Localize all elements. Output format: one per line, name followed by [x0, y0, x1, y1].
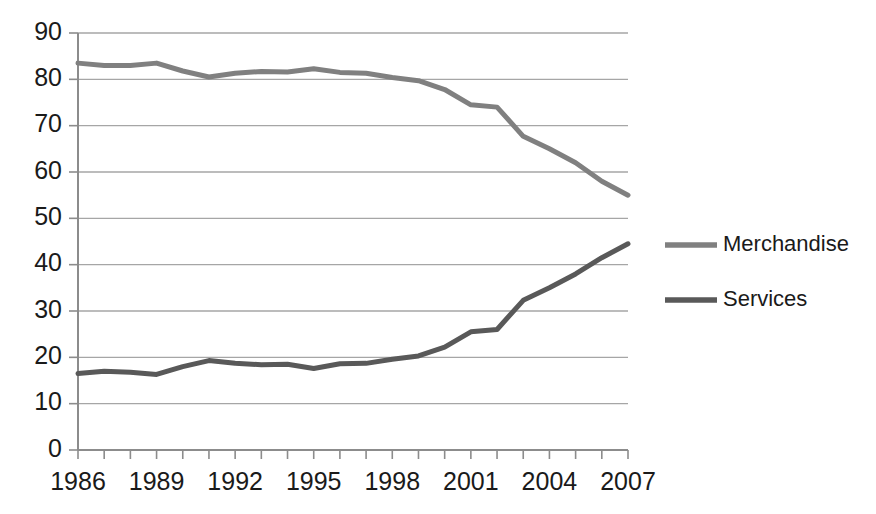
chart-canvas: 0102030405060708090 19861989199219951998…: [0, 0, 876, 514]
y-tick-label: 50: [34, 202, 62, 230]
y-tick-label: 40: [34, 248, 62, 276]
y-tick-label: 20: [34, 341, 62, 369]
y-tick-labels-group: 0102030405060708090: [34, 17, 62, 462]
x-tick-label: 1992: [207, 467, 263, 495]
series-line-services: [78, 244, 628, 375]
x-tick-label: 2001: [443, 467, 499, 495]
x-tick-label: 1986: [50, 467, 106, 495]
x-tick-labels-group: 19861989199219951998200120042007: [50, 467, 656, 495]
x-tick-label: 1998: [364, 467, 420, 495]
y-tick-label: 30: [34, 295, 62, 323]
series-line-merchandise: [78, 63, 628, 195]
y-tick-label: 90: [34, 17, 62, 45]
x-tick-label: 1989: [129, 467, 185, 495]
legend-label-services: Services: [723, 286, 807, 311]
y-tick-label: 70: [34, 109, 62, 137]
legend-label-merchandise: Merchandise: [723, 231, 849, 256]
x-tick-label: 2004: [522, 467, 578, 495]
y-tick-label: 80: [34, 63, 62, 91]
y-tick-label: 0: [48, 434, 62, 462]
y-tick-label: 10: [34, 387, 62, 415]
x-tick-label: 1995: [286, 467, 342, 495]
x-axis-group: [78, 450, 628, 459]
legend: MerchandiseServices: [665, 231, 849, 311]
line-chart: 0102030405060708090 19861989199219951998…: [0, 0, 876, 514]
gridlines-group: [78, 33, 628, 404]
x-tick-label: 2007: [600, 467, 656, 495]
y-tick-label: 60: [34, 156, 62, 184]
y-axis-group: [69, 33, 78, 450]
